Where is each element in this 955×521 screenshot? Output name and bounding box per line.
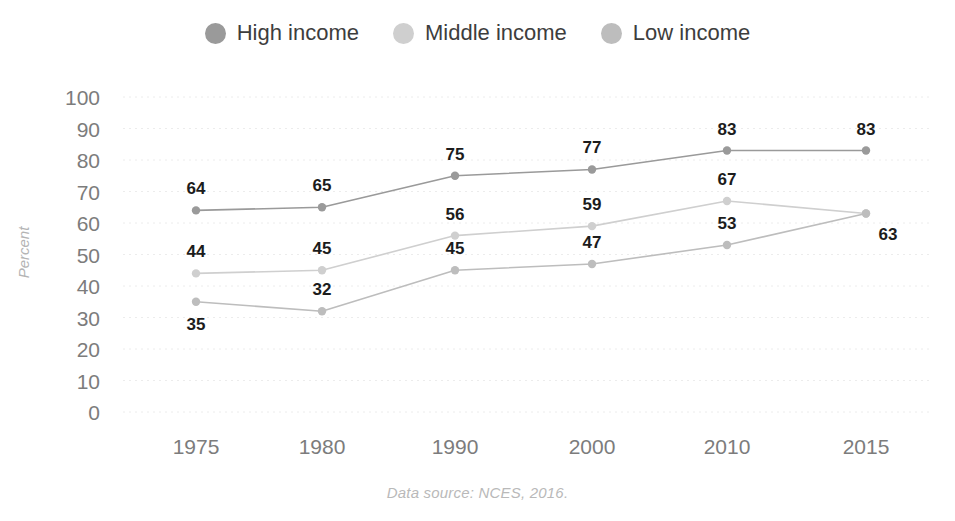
data-point bbox=[862, 209, 870, 217]
data-label: 77 bbox=[583, 139, 602, 156]
x-axis-tick: 1990 bbox=[432, 436, 479, 457]
data-point bbox=[723, 241, 731, 249]
data-label: 67 bbox=[718, 170, 737, 187]
y-axis-tick: 40 bbox=[38, 276, 100, 297]
data-label: 44 bbox=[187, 243, 206, 260]
x-axis-tick: 2010 bbox=[704, 436, 751, 457]
data-point bbox=[318, 307, 326, 315]
data-point bbox=[588, 165, 596, 173]
x-axis-tick: 2000 bbox=[569, 436, 616, 457]
data-label: 83 bbox=[857, 120, 876, 137]
data-point bbox=[723, 146, 731, 154]
data-label: 83 bbox=[718, 120, 737, 137]
data-label: 32 bbox=[313, 281, 332, 298]
x-axis-tick: 1975 bbox=[173, 436, 220, 457]
data-label: 65 bbox=[313, 177, 332, 194]
y-axis-tick: 80 bbox=[38, 150, 100, 171]
y-axis-tick: 20 bbox=[38, 339, 100, 360]
data-label: 75 bbox=[446, 145, 465, 162]
data-label: 56 bbox=[446, 205, 465, 222]
data-label: 63 bbox=[879, 225, 898, 242]
y-axis-tick: 0 bbox=[38, 402, 100, 423]
data-point bbox=[318, 266, 326, 274]
x-axis-tick: 1980 bbox=[299, 436, 346, 457]
data-point bbox=[318, 203, 326, 211]
data-point bbox=[862, 146, 870, 154]
data-label: 35 bbox=[187, 315, 206, 332]
data-point bbox=[451, 172, 459, 180]
y-axis-tick: 50 bbox=[38, 244, 100, 265]
y-axis-title: Percent bbox=[15, 227, 32, 279]
source-note: Data source: NCES, 2016. bbox=[0, 484, 955, 501]
data-label: 47 bbox=[583, 233, 602, 250]
y-axis-tick: 60 bbox=[38, 213, 100, 234]
line-chart: High income Middle income Low income Per… bbox=[0, 0, 955, 521]
x-axis-tick: 2015 bbox=[843, 436, 890, 457]
data-label: 45 bbox=[313, 240, 332, 257]
data-label: 45 bbox=[446, 240, 465, 257]
series-line-low-income bbox=[196, 214, 866, 312]
data-label: 53 bbox=[718, 215, 737, 232]
data-label: 59 bbox=[583, 196, 602, 213]
data-point bbox=[192, 298, 200, 306]
data-point bbox=[192, 206, 200, 214]
y-axis-tick: 10 bbox=[38, 370, 100, 391]
data-point bbox=[588, 222, 596, 230]
data-label: 64 bbox=[187, 180, 206, 197]
data-point bbox=[588, 260, 596, 268]
y-axis-tick: 100 bbox=[38, 87, 100, 108]
y-axis-tick: 90 bbox=[38, 118, 100, 139]
data-point bbox=[723, 197, 731, 205]
y-axis-tick: 30 bbox=[38, 307, 100, 328]
data-point bbox=[192, 269, 200, 277]
y-axis-tick: 70 bbox=[38, 181, 100, 202]
data-point bbox=[451, 266, 459, 274]
series-line-middle-income bbox=[196, 201, 866, 273]
